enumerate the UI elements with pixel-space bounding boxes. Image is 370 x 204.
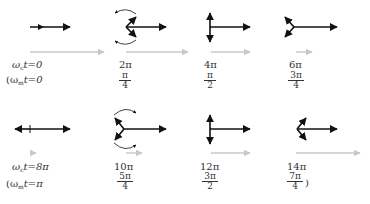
phasor-12pi	[210, 115, 250, 144]
carrier-label-6pi: 6π	[289, 60, 302, 70]
phasor-2pi	[115, 10, 166, 45]
mod-fraction-3pi-2: 3π2	[202, 172, 218, 191]
phasor-14pi	[297, 118, 337, 140]
row2-mod-phase: (ωmt=π	[6, 179, 43, 192]
closing-parenthesis: )	[305, 177, 309, 188]
row2-carrier-phase: ωct=8π	[12, 162, 49, 175]
row1-carrier-phase: ωct=0	[12, 60, 42, 73]
phasor-6pi	[285, 17, 337, 37]
mod-fraction-7pi-4: 7π4	[287, 172, 303, 191]
phasor-10pi	[114, 109, 166, 148]
carrier-label-2pi: 2π	[119, 60, 132, 70]
phasor-4pi	[210, 13, 250, 42]
phasor-8pi	[15, 125, 70, 133]
mod-fraction-5pi-4: 5π4	[117, 172, 133, 191]
row1-mod-phase: (ωmt=0	[6, 75, 43, 88]
phasor-diagram	[0, 0, 370, 204]
mod-fraction-pi-2: π2	[204, 71, 216, 90]
carrier-label-4pi: 4π	[204, 60, 217, 70]
phasor-t0	[30, 24, 70, 30]
mod-fraction-pi-4: π4	[119, 71, 131, 90]
mod-fraction-3pi-4: 3π4	[288, 71, 304, 90]
